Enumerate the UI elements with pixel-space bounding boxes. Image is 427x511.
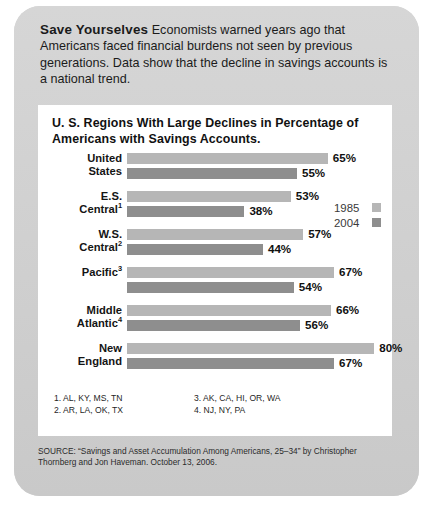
category-label: W.S.Central2 [38, 228, 122, 253]
chart-panel: U. S. Regions With Large Declines in Per… [38, 105, 392, 436]
chart-title: U. S. Regions With Large Declines in Per… [52, 115, 378, 147]
bar-chart-plot: UnitedStates65%55%E.S.Central153%38%W.S.… [38, 153, 392, 381]
category-label-line: New [38, 342, 122, 355]
category-label-line: W.S. [38, 228, 122, 241]
bar-value-label: 55% [302, 166, 325, 179]
bar-value-label: 80% [379, 341, 402, 354]
category-label-line: Middle [38, 304, 122, 317]
bar-1985 [127, 153, 328, 164]
infographic-root: Save Yourselves Economists warned years … [0, 0, 427, 511]
bar-1985 [127, 267, 334, 278]
bar-2004 [127, 168, 297, 179]
category-label-line: United [38, 152, 122, 165]
bar-1985 [127, 191, 291, 202]
bar-2004 [127, 320, 300, 331]
bar-1985 [127, 305, 331, 316]
infographic-card: Save Yourselves Economists warned years … [14, 6, 419, 496]
headline-title: Save Yourselves [40, 22, 148, 37]
chart-legend: 19852004 [334, 200, 392, 230]
footnote-marker: 2 [118, 239, 122, 248]
legend-swatch [372, 218, 381, 227]
category-label-line: States [38, 165, 122, 178]
footnote-item: 3. AK, CA, HI, OR, WA [194, 392, 281, 404]
footnote-item: 2. AR, LA, OK, TX [54, 404, 123, 416]
bar-value-label: 67% [339, 356, 362, 369]
footnote-item: 4. NJ, NY, PA [194, 404, 281, 416]
footnote-column-left: 1. AL, KY, MS, TN2. AR, LA, OK, TX [54, 392, 123, 416]
category-label: NewEngland [38, 342, 122, 367]
bar-2004 [127, 244, 263, 255]
category-label: Pacific3 [38, 266, 122, 279]
bar-value-label: 53% [296, 189, 319, 202]
bar-value-label: 67% [339, 265, 362, 278]
category-label: E.S.Central1 [38, 190, 122, 215]
bar-value-label: 65% [333, 151, 356, 164]
category-label: UnitedStates [38, 152, 122, 177]
footnote-marker: 4 [118, 315, 122, 324]
footnote-item: 1. AL, KY, MS, TN [54, 392, 123, 404]
legend-label: 1985 [334, 202, 368, 214]
category-label-line: Atlantic4 [38, 317, 122, 330]
legend-item-1985: 1985 [334, 200, 392, 215]
category-label-line: Central1 [38, 203, 122, 216]
bar-value-label: 54% [299, 280, 322, 293]
bar-value-label: 38% [249, 204, 272, 217]
legend-label: 2004 [334, 217, 368, 229]
bar-value-label: 57% [308, 227, 331, 240]
bar-value-label: 66% [336, 303, 359, 316]
bar-2004 [127, 282, 294, 293]
bar-2004 [127, 358, 334, 369]
footnote-marker: 3 [118, 264, 122, 273]
footnote-column-right: 3. AK, CA, HI, OR, WA4. NJ, NY, PA [194, 392, 281, 416]
headline-block: Save Yourselves Economists warned years … [40, 22, 396, 88]
legend-item-2004: 2004 [334, 215, 392, 230]
bar-value-label: 44% [268, 242, 291, 255]
category-label-line: Central2 [38, 241, 122, 254]
category-label: MiddleAtlantic4 [38, 304, 122, 329]
legend-swatch [372, 203, 381, 212]
source-line: SOURCE: “Savings and Asset Accumulation … [38, 446, 396, 469]
category-label-line: Pacific3 [38, 266, 122, 279]
bar-2004 [127, 206, 244, 217]
bar-1985 [127, 343, 374, 354]
category-label-line: E.S. [38, 190, 122, 203]
category-label-line: England [38, 355, 122, 368]
bar-1985 [127, 229, 303, 240]
footnote-marker: 1 [118, 201, 122, 210]
bar-value-label: 56% [305, 318, 328, 331]
